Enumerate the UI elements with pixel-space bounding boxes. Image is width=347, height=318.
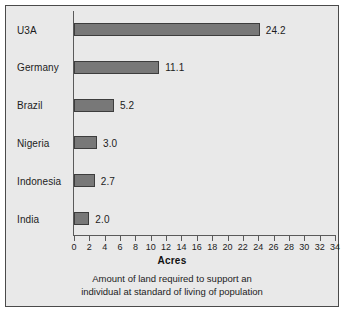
- x-axis-tick-label: 2: [87, 242, 92, 252]
- x-axis-tick-label: 16: [192, 242, 202, 252]
- bar: [74, 61, 159, 74]
- x-axis-tick-label: 4: [102, 242, 107, 252]
- x-axis-tick-mark: [74, 236, 75, 241]
- bar-value-label: 5.2: [120, 100, 134, 111]
- chart-caption: Amount of land required to support an in…: [6, 272, 338, 298]
- x-axis-tick-label: 10: [146, 242, 156, 252]
- category-label: Indonesia: [6, 175, 68, 186]
- x-axis-tick-mark: [289, 236, 290, 241]
- x-axis-tick-label: 20: [223, 242, 233, 252]
- x-axis-tick-mark: [274, 236, 275, 241]
- x-axis-tick-mark: [212, 236, 213, 241]
- bar-value-label: 2.7: [101, 175, 115, 186]
- x-axis-tick-mark: [304, 236, 305, 241]
- x-axis-tick-mark: [335, 236, 336, 241]
- x-axis-line: [73, 235, 336, 236]
- x-axis-tick-label: 24: [253, 242, 263, 252]
- bar: [74, 136, 97, 149]
- bar: [74, 23, 260, 36]
- x-axis-tick-mark: [151, 236, 152, 241]
- category-label: Brazil: [6, 100, 68, 111]
- caption-line-2: individual at standard of living of popu…: [6, 285, 338, 298]
- category-label: India: [6, 213, 68, 224]
- category-label: Germany: [6, 62, 68, 73]
- x-axis-tick-mark: [120, 236, 121, 241]
- bar-row: India2.0: [6, 212, 338, 225]
- bar-row: Brazil5.2: [6, 99, 338, 112]
- x-axis-tick-label: 22: [238, 242, 248, 252]
- x-axis-tick-label: 0: [71, 242, 76, 252]
- x-axis-tick-label: 6: [118, 242, 123, 252]
- x-axis-tick-mark: [89, 236, 90, 241]
- y-axis-line: [73, 11, 74, 235]
- x-axis-tick-mark: [166, 236, 167, 241]
- x-axis-tick-mark: [197, 236, 198, 241]
- x-axis-tick-label: 32: [315, 242, 325, 252]
- x-axis-title: Acres: [6, 255, 338, 266]
- x-axis-tick-label: 18: [207, 242, 217, 252]
- x-axis-tick-mark: [243, 236, 244, 241]
- x-axis-tick-label: 14: [176, 242, 186, 252]
- bar: [74, 212, 89, 225]
- bar-value-label: 11.1: [165, 62, 184, 73]
- chart-frame: U3A24.2Germany11.1Brazil5.2Nigeria3.0Ind…: [5, 5, 339, 307]
- x-axis-tick-label: 34: [330, 242, 340, 252]
- bar: [74, 174, 95, 187]
- bar-value-label: 24.2: [266, 24, 286, 35]
- x-axis-tick-mark: [320, 236, 321, 241]
- category-label: U3A: [6, 24, 68, 35]
- x-axis-tick-mark: [135, 236, 136, 241]
- bar-row: Indonesia2.7: [6, 174, 338, 187]
- x-axis-tick-mark: [105, 236, 106, 241]
- x-axis-tick-label: 12: [161, 242, 171, 252]
- caption-line-1: Amount of land required to support an: [6, 272, 338, 285]
- x-axis-tick-label: 26: [269, 242, 279, 252]
- x-axis-tick-mark: [258, 236, 259, 241]
- x-axis-tick-mark: [181, 236, 182, 241]
- bar-value-label: 3.0: [103, 137, 117, 148]
- bar-row: Nigeria3.0: [6, 136, 338, 149]
- bar-value-label: 2.0: [95, 213, 109, 224]
- bar: [74, 99, 114, 112]
- plot-area: U3A24.2Germany11.1Brazil5.2Nigeria3.0Ind…: [6, 6, 338, 306]
- bar-row: Germany11.1: [6, 61, 338, 74]
- x-axis-tick-label: 28: [284, 242, 294, 252]
- category-label: Nigeria: [6, 137, 68, 148]
- x-axis-tick-label: 8: [133, 242, 138, 252]
- bar-row: U3A24.2: [6, 23, 338, 36]
- x-axis-tick-mark: [228, 236, 229, 241]
- x-axis-tick-label: 30: [299, 242, 309, 252]
